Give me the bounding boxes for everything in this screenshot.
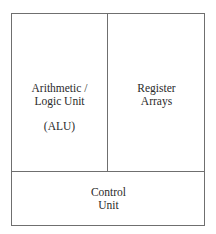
control-label-line2: Unit <box>12 199 205 212</box>
alu-label-line2: Logic Unit <box>12 95 107 108</box>
control-label-line1: Control <box>12 186 205 199</box>
register-label-line1: Register <box>108 82 205 95</box>
register-label-line2: Arrays <box>108 95 205 108</box>
control-unit-divider <box>11 171 205 172</box>
alu-abbreviation: (ALU) <box>12 120 107 133</box>
register-arrays-label: Register Arrays <box>108 82 205 108</box>
alu-block-label: Arithmetic / Logic Unit <box>12 82 107 108</box>
alu-label-line1: Arithmetic / <box>12 82 107 95</box>
control-unit-label: Control Unit <box>12 186 205 212</box>
